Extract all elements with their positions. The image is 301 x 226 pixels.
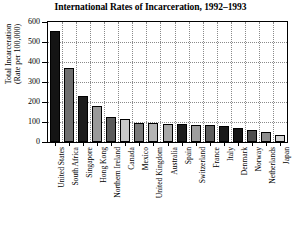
x-axis-label-text: Hong Kong bbox=[100, 147, 108, 183]
x-axis-label-text: Mexico bbox=[142, 147, 150, 170]
v-gridline bbox=[245, 22, 246, 142]
x-axis-label-text: Switzerland bbox=[199, 147, 207, 183]
x-tick-mark bbox=[55, 143, 56, 146]
bar-australia bbox=[163, 124, 173, 142]
x-tick-mark bbox=[97, 143, 98, 146]
y-tick-label: 100 bbox=[18, 118, 40, 126]
plot-inner bbox=[48, 22, 287, 142]
y-tick-label: 600 bbox=[18, 18, 40, 26]
bar-denmark bbox=[233, 128, 243, 142]
bar-canada bbox=[120, 119, 130, 142]
x-axis-label-text: Norway bbox=[255, 147, 263, 171]
y-tick-label: 400 bbox=[18, 58, 40, 66]
y-tick-label: 200 bbox=[18, 98, 40, 106]
bar-italy bbox=[219, 126, 229, 142]
x-axis-label-text: South Africa bbox=[72, 147, 80, 186]
bar-france bbox=[205, 125, 215, 142]
x-axis-label-text: Japan bbox=[283, 147, 291, 164]
v-gridline bbox=[160, 22, 161, 142]
chart-title: International Rates of Incarceration, 19… bbox=[0, 2, 301, 12]
x-axis-label-text: Denmark bbox=[241, 147, 249, 175]
x-tick-mark bbox=[182, 143, 183, 146]
v-gridline bbox=[217, 22, 218, 142]
bar-united-states bbox=[50, 31, 60, 142]
bar-netherlands bbox=[261, 132, 271, 142]
x-axis-label-text: United Kingdom bbox=[156, 147, 164, 198]
h-gridline bbox=[48, 62, 287, 63]
x-tick-mark bbox=[125, 143, 126, 146]
v-gridline bbox=[175, 22, 176, 142]
bar-switzerland bbox=[191, 125, 201, 142]
bar-japan bbox=[275, 135, 285, 142]
v-gridline bbox=[146, 22, 147, 142]
x-tick-mark bbox=[238, 143, 239, 146]
v-gridline bbox=[76, 22, 77, 142]
x-tick-mark bbox=[153, 143, 154, 146]
incarceration-bar-chart: International Rates of Incarceration, 19… bbox=[0, 0, 301, 226]
y-tick-label: 0 bbox=[18, 138, 40, 146]
x-tick-mark bbox=[266, 143, 267, 146]
v-gridline bbox=[273, 22, 274, 142]
x-tick-mark bbox=[83, 143, 84, 146]
x-axis-label-text: Australia bbox=[171, 147, 179, 175]
x-tick-mark bbox=[168, 143, 169, 146]
x-axis-label-text: Spain bbox=[185, 147, 193, 164]
x-axis-label-text: Canada bbox=[128, 147, 136, 170]
h-gridline bbox=[48, 42, 287, 43]
y-tick-label: 300 bbox=[18, 78, 40, 86]
x-axis-label-text: United States bbox=[58, 147, 66, 188]
bar-norway bbox=[247, 130, 257, 142]
x-axis-label-text: Netherlands bbox=[269, 147, 277, 184]
x-axis-label-text: France bbox=[213, 147, 221, 168]
x-tick-mark bbox=[252, 143, 253, 146]
x-tick-mark bbox=[111, 143, 112, 146]
x-axis-label-text: Northern Ireland bbox=[114, 147, 122, 198]
v-gridline bbox=[189, 22, 190, 142]
bar-singapore bbox=[78, 96, 88, 142]
bar-south-africa bbox=[64, 68, 74, 142]
h-gridline bbox=[48, 82, 287, 83]
x-tick-mark bbox=[210, 143, 211, 146]
x-tick-mark bbox=[224, 143, 225, 146]
v-gridline bbox=[90, 22, 91, 142]
v-gridline bbox=[259, 22, 260, 142]
y-axis-label-line-2: (Rate per 100,000) bbox=[14, 24, 23, 84]
x-tick-mark bbox=[280, 143, 281, 146]
x-axis-label-text: Singapore bbox=[86, 147, 94, 178]
bar-hong-kong bbox=[92, 106, 102, 142]
v-gridline bbox=[118, 22, 119, 142]
bar-mexico bbox=[134, 123, 144, 142]
x-tick-mark bbox=[196, 143, 197, 146]
bar-spain bbox=[177, 124, 187, 142]
y-axis-label: Total Incarceration (Rate per 100,000) bbox=[0, 0, 28, 109]
y-tick-label: 500 bbox=[18, 38, 40, 46]
plot-area bbox=[47, 21, 288, 143]
v-gridline bbox=[104, 22, 105, 142]
bar-northern-ireland bbox=[106, 117, 116, 142]
v-gridline bbox=[132, 22, 133, 142]
v-gridline bbox=[231, 22, 232, 142]
v-gridline bbox=[203, 22, 204, 142]
x-axis-label-text: Italy bbox=[227, 147, 235, 161]
x-tick-mark bbox=[139, 143, 140, 146]
v-gridline bbox=[62, 22, 63, 142]
x-tick-mark bbox=[69, 143, 70, 146]
bar-united-kingdom bbox=[148, 123, 158, 142]
